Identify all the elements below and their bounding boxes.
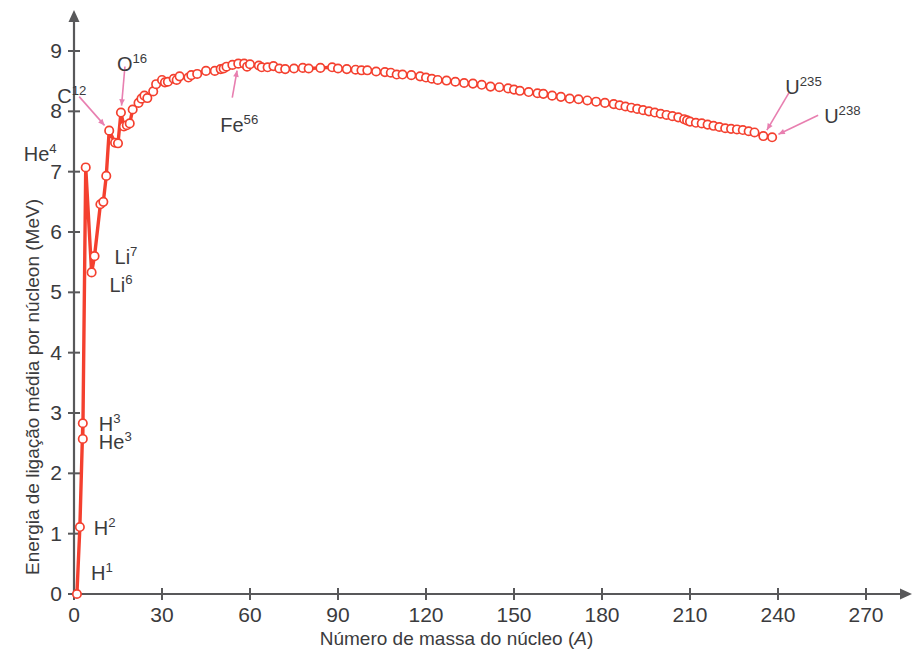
x-axis-title-main: Número de massa do núcleo ( [320,628,575,649]
annotation-mass-number: 7 [130,244,137,259]
annotation-element-symbol: C [57,84,71,106]
annotation-mass-number: 238 [839,103,861,118]
annotation-element-symbol: U [824,105,838,127]
annotation-element-symbol: U [785,76,799,98]
annotation-element-symbol: He [24,143,50,165]
data-line-series [77,64,772,594]
x-tick-label: 270 [836,604,896,625]
annotation-element-symbol: He [99,431,125,453]
annotation-he3: He3 [99,429,132,454]
annotation-mass-number: 4 [49,141,56,156]
binding-energy-curve-plot [0,0,913,665]
annotation-u235: U235 [785,74,821,99]
y-tick-label: 9 [34,40,62,61]
annotation-he4: He4 [24,141,57,166]
annotation-u238: U238 [824,103,860,128]
annotation-mass-number: 3 [113,411,120,426]
annotation-element-symbol: O [117,52,133,74]
annotation-element-symbol: H [91,562,105,584]
annotation-h2: H2 [94,515,116,540]
annotation-mass-number: 56 [244,112,259,127]
annotation-element-symbol: H [94,517,108,539]
annotation-mass-number: 235 [800,74,822,89]
annotation-element-symbol: Li [115,246,131,268]
y-axis-arrowhead [69,10,80,22]
annotation-c12: C12 [57,83,86,108]
x-axis-arrowhead [900,589,912,600]
x-tick-label: 210 [660,604,720,625]
data-point-markers [73,59,777,598]
annotation-li6: Li6 [110,272,133,297]
annotation-li7: Li7 [115,244,138,269]
y-tick-label: 0 [34,583,62,604]
x-tick-label: 150 [484,604,544,625]
annotation-mass-number: 16 [132,51,147,66]
x-axis-title-symbol: A [574,628,587,649]
x-tick-label: 60 [220,604,280,625]
annotation-mass-number: 2 [108,515,115,530]
x-tick-label: 0 [44,604,104,625]
x-tick-label: 30 [132,604,192,625]
annotation-h1: H1 [91,560,113,585]
annotation-element-symbol: Fe [220,113,243,135]
x-tick-label: 240 [748,604,808,625]
y-axis-title: Energia de ligação média por núcleon (Me… [22,199,44,575]
x-tick-label: 120 [396,604,456,625]
annotation-fe56: Fe56 [220,112,258,137]
annotation-mass-number: 1 [105,560,112,575]
annotation-mass-number: 6 [125,272,132,287]
annotation-mass-number: 12 [72,83,87,98]
annotation-element-symbol: Li [110,274,126,296]
annotation-o16: O16 [117,51,147,76]
x-axis-title-close: ) [587,628,593,649]
x-axis-title: Número de massa do núcleo (A) [0,628,913,650]
x-tick-label: 180 [572,604,632,625]
chart-figure: 0123456789 0306090120150180210240270 H1H… [0,0,913,665]
annotation-mass-number: 3 [124,429,131,444]
x-tick-label: 90 [308,604,368,625]
